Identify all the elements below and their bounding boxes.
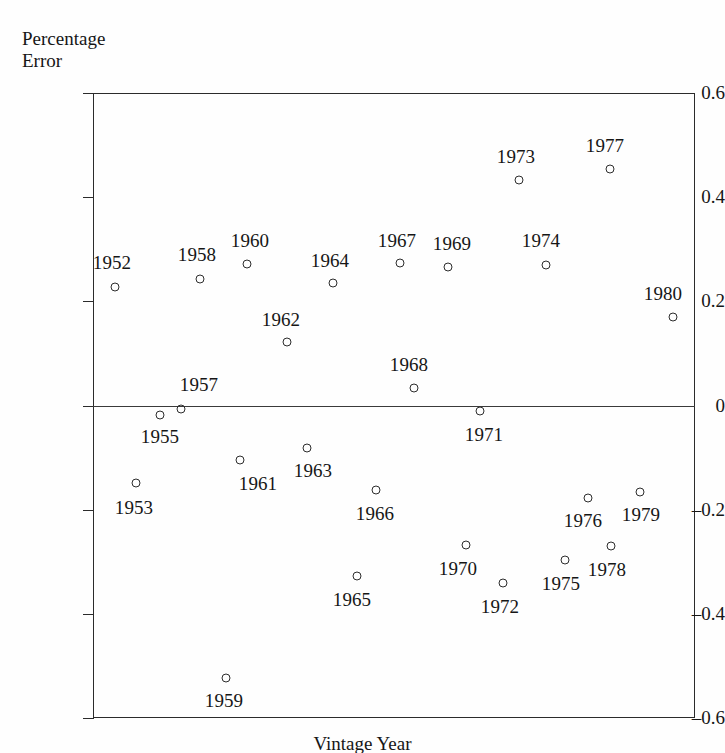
data-point-label: 1958: [178, 244, 216, 266]
data-point-marker[interactable]: [329, 279, 338, 288]
y-axis-tick: [83, 510, 94, 511]
data-point-label: 1964: [311, 250, 349, 272]
data-point-label: 1966: [356, 503, 394, 525]
data-point-label: 1963: [294, 460, 332, 482]
y-axis-tick-label: 0.6: [651, 82, 725, 104]
y-axis-tick-label: –0.4: [651, 603, 725, 625]
data-point-label: 1968: [390, 354, 428, 376]
data-point-marker[interactable]: [499, 579, 508, 588]
y-axis-title-line-1: Percentage: [22, 28, 105, 49]
data-point-label: 1972: [481, 596, 519, 618]
data-point-marker[interactable]: [542, 261, 551, 270]
chart-page: PercentageError 0.60.40.20–0.2–0.4–0.619…: [0, 0, 725, 753]
data-point-label: 1980: [644, 283, 682, 305]
data-point-label: 1967: [378, 230, 416, 252]
data-point-label: 1973: [497, 146, 535, 168]
data-point-marker[interactable]: [410, 384, 419, 393]
data-point-label: 1952: [93, 252, 131, 274]
data-point-marker[interactable]: [283, 338, 292, 347]
data-point-label: 1965: [333, 589, 371, 611]
data-point-marker[interactable]: [156, 411, 165, 420]
data-point-label: 1971: [465, 424, 503, 446]
data-point-marker[interactable]: [303, 444, 312, 453]
y-axis-tick-label: 0.4: [651, 186, 725, 208]
data-point-marker[interactable]: [236, 456, 245, 465]
data-point-marker[interactable]: [606, 165, 615, 174]
data-point-marker[interactable]: [669, 313, 678, 322]
data-point-label: 1957: [180, 374, 218, 396]
data-point-marker[interactable]: [396, 259, 405, 268]
data-point-marker[interactable]: [561, 556, 570, 565]
y-axis-tick: [83, 93, 94, 94]
data-point-marker[interactable]: [372, 486, 381, 495]
data-point-label: 1953: [115, 497, 153, 519]
data-point-label: 1955: [141, 426, 179, 448]
data-point-label: 1978: [588, 559, 626, 581]
data-point-marker[interactable]: [132, 479, 141, 488]
data-point-marker[interactable]: [636, 488, 645, 497]
data-point-marker[interactable]: [476, 407, 485, 416]
data-point-label: 1960: [231, 230, 269, 252]
data-point-label: 1976: [564, 510, 602, 532]
data-point-marker[interactable]: [353, 572, 362, 581]
y-axis-tick: [83, 614, 94, 615]
data-point-marker[interactable]: [462, 541, 471, 550]
data-point-label: 1962: [262, 309, 300, 331]
data-point-marker[interactable]: [177, 405, 186, 414]
data-point-marker[interactable]: [607, 542, 616, 551]
data-point-label: 1959: [205, 690, 243, 712]
y-axis-tick: [83, 718, 94, 719]
y-axis-title-line-2: Error: [22, 50, 62, 71]
y-axis-tick-label: –0.2: [651, 499, 725, 521]
data-point-marker[interactable]: [444, 263, 453, 272]
x-axis-title: Vintage Year: [0, 733, 725, 753]
data-point-label: 1969: [433, 233, 471, 255]
data-point-label: 1979: [622, 504, 660, 526]
data-point-label: 1974: [522, 230, 560, 252]
data-point-marker[interactable]: [111, 283, 120, 292]
data-point-label: 1977: [586, 135, 624, 157]
data-point-marker[interactable]: [243, 260, 252, 269]
data-point-label: 1970: [439, 558, 477, 580]
y-axis-tick: [83, 197, 94, 198]
data-point-marker[interactable]: [584, 494, 593, 503]
data-point-marker[interactable]: [515, 176, 524, 185]
y-axis-tick: [83, 301, 94, 302]
data-point-marker[interactable]: [222, 674, 231, 683]
data-point-label: 1961: [239, 473, 277, 495]
y-axis-tick-label: –0.6: [651, 707, 725, 729]
data-point-marker[interactable]: [196, 275, 205, 284]
data-point-label: 1975: [542, 573, 580, 595]
y-axis-title: PercentageError: [22, 28, 105, 72]
